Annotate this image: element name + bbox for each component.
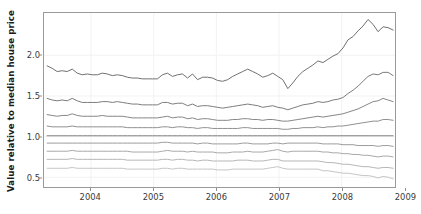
x-tick-mark bbox=[405, 188, 406, 191]
y-tick-mark bbox=[39, 178, 42, 179]
y-tick-mark bbox=[39, 137, 42, 138]
x-tick-label: 2008 bbox=[322, 192, 362, 202]
series-line-decile-2 bbox=[47, 159, 393, 169]
x-tick-label: 2009 bbox=[385, 192, 421, 202]
x-tick-label: 2006 bbox=[196, 192, 236, 202]
data-series-group bbox=[47, 20, 393, 179]
plot-area bbox=[43, 12, 396, 188]
x-tick-label: 2005 bbox=[133, 192, 173, 202]
series-line-decile-6 bbox=[47, 120, 393, 130]
x-tick-mark bbox=[90, 188, 91, 191]
y-axis-tick-labels: 0.51.01.52.0 bbox=[0, 0, 40, 214]
x-tick-mark bbox=[342, 188, 343, 191]
y-tick-mark bbox=[39, 54, 42, 55]
y-tick-label: 0.5 bbox=[0, 173, 40, 183]
x-tick-label: 2004 bbox=[70, 192, 110, 202]
series-line-decile-8 bbox=[47, 72, 393, 109]
y-tick-label: 1.0 bbox=[0, 132, 40, 142]
y-tick-label: 2.0 bbox=[0, 50, 40, 60]
series-line-decile-4 bbox=[47, 142, 393, 146]
chart-svg bbox=[44, 13, 395, 187]
series-line-decile-3 bbox=[47, 150, 393, 157]
x-tick-mark bbox=[279, 188, 280, 191]
y-tick-label: 1.5 bbox=[0, 91, 40, 101]
x-tick-label: 2007 bbox=[259, 192, 299, 202]
series-line-decile-9 bbox=[47, 20, 393, 89]
x-tick-mark bbox=[153, 188, 154, 191]
y-tick-mark bbox=[39, 95, 42, 96]
x-tick-mark bbox=[216, 188, 217, 191]
